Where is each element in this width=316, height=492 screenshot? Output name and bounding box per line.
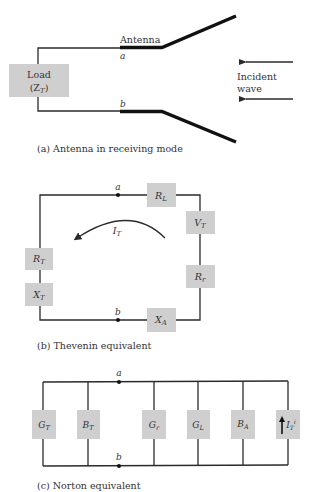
thevenin-loop-wire	[40, 195, 200, 320]
terminal-a-dot	[117, 380, 121, 384]
panel-c-norton: a b GT BT Gr GL BA ITi (c) Norton equiva…	[32, 368, 300, 491]
panel-b-thevenin: a b RL VT Rr RT XT XA IT (b) Thevenin eq…	[25, 182, 215, 351]
antenna-label: Antenna	[119, 34, 161, 45]
panel-a-receiving-mode: Load (ZT) Antenna a b Incident wave (a) …	[9, 16, 293, 154]
terminal-a-dot	[116, 193, 120, 197]
terminal-a-label: a	[120, 51, 125, 61]
load-label: Load	[27, 69, 51, 80]
bottom-rail	[43, 465, 288, 466]
terminal-b-label: b	[120, 99, 126, 109]
caption-a: (a) Antenna in receiving mode	[37, 143, 183, 154]
top-rail	[43, 381, 288, 382]
terminal-b-label: b	[116, 452, 122, 462]
antenna-circuit-figure: Load (ZT) Antenna a b Incident wave (a) …	[0, 0, 316, 492]
caption-c: (c) Norton equivalent	[37, 480, 141, 491]
upper-feed-wire	[38, 48, 120, 64]
terminal-a-label: a	[116, 368, 121, 378]
current-it-label: IT	[112, 225, 123, 238]
terminal-b-dot	[117, 464, 121, 468]
terminal-b-dot	[116, 318, 120, 322]
caption-b: (b) Thevenin equivalent	[37, 340, 152, 351]
incident-label: Incident	[237, 71, 277, 82]
wave-label: wave	[237, 83, 262, 94]
lower-feed-wire	[38, 97, 120, 111]
terminal-b-label: b	[115, 307, 121, 317]
terminal-a-label: a	[115, 182, 120, 192]
antenna-lower-arm	[120, 112, 236, 143]
